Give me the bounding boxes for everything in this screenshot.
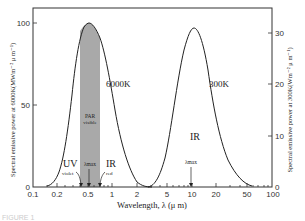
- spectral-chart: 0.1 0.2 0.5 1 2 5 10 20 50 100 0 50 100 …: [0, 0, 305, 221]
- label-uv: UV: [63, 158, 78, 169]
- x-tick-labels: 0.1 0.2 0.5 1 2 5 10 20 50 100: [27, 190, 280, 199]
- y-left-axis-title: Spectral emissive power at 6000K(MWm⁻² μ…: [9, 43, 17, 177]
- y-left-tick-label: 50: [21, 101, 30, 110]
- x-tick-label: 50: [243, 190, 252, 199]
- y-right-ticks: [268, 33, 272, 136]
- y-right-tick-label: 20: [275, 80, 284, 89]
- x-tick-label: 2: [135, 190, 140, 199]
- x-tick-label: 0.5: [82, 190, 94, 199]
- figure-caption: FIGURE 1: [2, 214, 34, 221]
- label-visible: visible: [83, 120, 97, 125]
- label-6000k: 6000K: [106, 79, 131, 89]
- y-left-tick-label: 0: [26, 183, 31, 192]
- x-tick-label: 1: [110, 190, 115, 199]
- x-tick-label: 0.2: [51, 190, 63, 199]
- x-tick-label: 20: [212, 190, 221, 199]
- label-red: red: [106, 171, 113, 176]
- label-lambda-max-earth: λmax: [185, 159, 197, 165]
- label-ir-earth: IR: [190, 131, 200, 142]
- y-right-tick-label: 10: [275, 132, 284, 141]
- y-right-axis-title: Spectral emissive power at 300K(Wm⁻² μ m…: [286, 47, 294, 172]
- x-tick-label: 10: [188, 190, 197, 199]
- y-left-ticks: [33, 23, 37, 105]
- y-left-tick-label: 100: [17, 19, 31, 28]
- y-right-tick-label: 30: [275, 29, 284, 38]
- label-300k: 300K: [209, 79, 230, 89]
- curve-300k: [148, 28, 252, 187]
- x-axis-title: Wavelength, λ (μ m): [117, 200, 187, 210]
- x-tick-label: 5: [165, 190, 170, 199]
- label-par: PAR: [85, 113, 96, 119]
- y-right-tick-label: 0: [275, 183, 280, 192]
- label-ir-sun: IR: [106, 158, 116, 169]
- label-lambda-max-sun: λmax: [84, 161, 96, 167]
- label-violet: violet: [62, 171, 74, 176]
